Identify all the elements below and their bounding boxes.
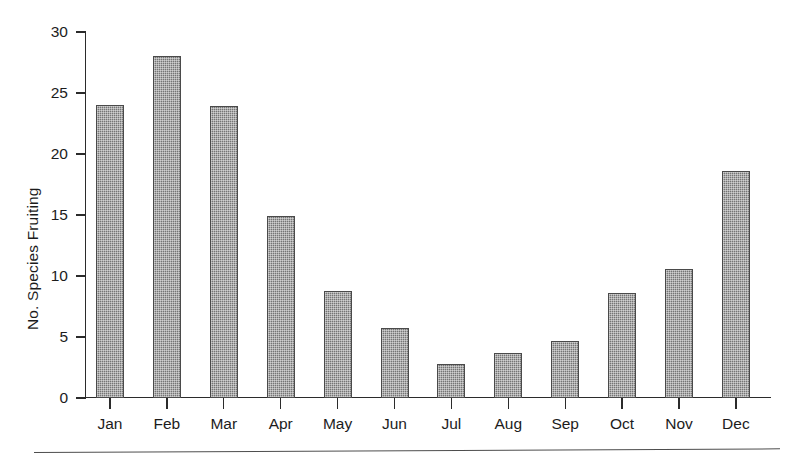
x-axis-tick	[565, 398, 566, 409]
y-axis-tick	[76, 397, 86, 398]
x-axis-tick-label: Aug	[478, 415, 538, 432]
x-axis-tick	[678, 398, 679, 409]
bar	[551, 341, 579, 398]
bar	[210, 106, 238, 398]
bar	[381, 328, 409, 398]
x-axis-tick	[223, 398, 224, 409]
x-axis-tick-label: Dec	[706, 415, 766, 432]
y-axis-tick	[76, 336, 86, 337]
bar	[608, 293, 636, 398]
x-axis-tick-label: Jun	[365, 415, 425, 432]
x-axis-tick-label: Nov	[649, 415, 709, 432]
x-axis-tick-label: May	[308, 415, 368, 432]
y-axis-tick-label: 10	[28, 268, 68, 284]
x-axis-tick-label: Mar	[194, 415, 254, 432]
x-axis-tick	[394, 398, 395, 409]
x-axis-tick	[109, 398, 110, 409]
bottom-rule-divider	[34, 448, 780, 453]
x-axis-tick	[166, 398, 167, 409]
x-axis-tick	[337, 398, 338, 409]
x-axis-tick	[508, 398, 509, 409]
x-axis-tick-label: Feb	[137, 415, 197, 432]
y-axis-tick-label: 0	[28, 390, 68, 406]
x-axis-tick	[280, 398, 281, 409]
x-axis-tick-label: Oct	[592, 415, 652, 432]
y-axis-tick-label: 5	[28, 329, 68, 345]
bar	[324, 291, 352, 398]
bar	[665, 269, 693, 398]
y-axis-tick	[76, 275, 86, 276]
x-axis-tick-label: Jan	[80, 415, 140, 432]
y-axis-tick-label: 25	[28, 85, 68, 101]
x-axis-tick	[451, 398, 452, 409]
y-axis-tick	[76, 214, 86, 215]
x-axis-tick-label: Apr	[251, 415, 311, 432]
y-axis-tick	[76, 153, 86, 154]
x-axis-tick-label: Jul	[421, 415, 481, 432]
bar	[494, 353, 522, 398]
y-axis-tick-label: 30	[28, 24, 68, 40]
bar	[153, 56, 181, 398]
y-axis-tick	[76, 31, 86, 32]
bar	[437, 364, 465, 398]
y-axis-tick-label: 15	[28, 207, 68, 223]
bar	[267, 216, 295, 398]
bar-chart-figure: No. Species Fruiting 051015202530 JanFeb…	[0, 0, 786, 471]
bar	[96, 105, 124, 398]
x-axis-tick-label: Sep	[535, 415, 595, 432]
y-axis-tick-label: 20	[28, 146, 68, 162]
y-axis-tick	[76, 92, 86, 93]
bar	[722, 171, 750, 398]
x-axis-tick	[621, 398, 622, 409]
x-axis-tick	[735, 398, 736, 409]
